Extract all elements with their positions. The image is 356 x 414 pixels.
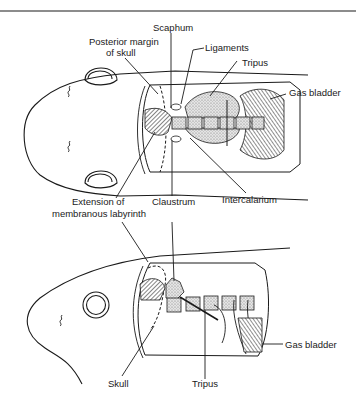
- label-posterior-margin-2: of skull: [106, 47, 136, 58]
- eye-icon: [85, 68, 117, 188]
- side-view-fish: [27, 248, 290, 384]
- label-skull: Skull: [108, 378, 129, 389]
- label-extension-2: membranous labyrinth: [52, 208, 146, 219]
- label-scaphum: Scaphum: [153, 22, 193, 33]
- label-gas-bladder-side: Gas bladder: [285, 339, 337, 350]
- label-gas-bladder-top: Gas bladder: [289, 87, 341, 98]
- label-tripus-top: Tripus: [242, 57, 268, 68]
- label-claustrum: Claustrum: [152, 196, 195, 207]
- label-ligaments: Ligaments: [205, 42, 249, 53]
- top-view-fish: [24, 68, 308, 200]
- label-intercalarium: Intercalarium: [222, 194, 277, 205]
- side-vertebrae-row: [167, 296, 254, 312]
- label-posterior-margin-1: Posterior margin: [89, 36, 159, 47]
- diagram-canvas: Scaphum Posterior margin of skull Ligame…: [0, 0, 356, 414]
- label-extension-1: Extension of: [72, 196, 125, 207]
- label-tripus-side: Tripus: [192, 378, 218, 389]
- vertebrae-row: [172, 117, 264, 129]
